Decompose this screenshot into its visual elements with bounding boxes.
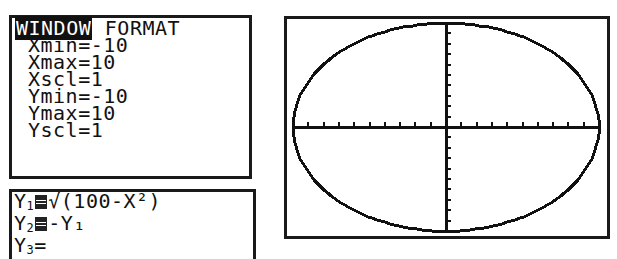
function-y1[interactable]: Y1√(100-X²)	[14, 193, 161, 215]
window-settings-screen: WINDOW FORMAT Xmin=-10 Xmax=10 Xscl=1 Ym…	[9, 15, 252, 179]
y-editor-screen: Y1√(100-X²) Y2-Y₁ Y3=	[9, 189, 256, 259]
graph-plot	[287, 19, 607, 236]
function-y3[interactable]: Y3=	[14, 237, 161, 259]
selected-equals-icon[interactable]	[35, 195, 47, 209]
setting-yscl[interactable]: Yscl=1	[15, 122, 180, 139]
selected-equals-icon[interactable]	[35, 217, 47, 231]
graph-screen	[284, 16, 610, 239]
